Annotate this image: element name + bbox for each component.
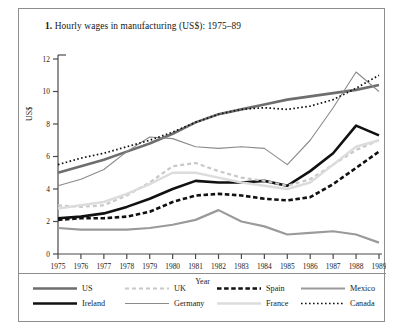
x-tick-label: 1982 — [211, 262, 226, 271]
legend-label-germany: Germany — [174, 299, 204, 308]
legend-label-spain: Spain — [266, 284, 285, 293]
x-tick-label: 1989 — [372, 262, 386, 271]
x-tick-label: 1981 — [188, 262, 203, 271]
legend-swatch-spain — [217, 285, 261, 292]
y-tick-label: 6 — [46, 152, 50, 161]
legend-item-france: France — [217, 299, 301, 308]
legend-swatch-germany — [125, 300, 169, 307]
series-line-france — [58, 140, 379, 208]
legend-grid: USUKSpainMexicoIrelandGermanyFranceCanad… — [33, 281, 377, 311]
legend-swatch-mexico — [301, 285, 345, 292]
x-tick-label: 1980 — [165, 262, 180, 271]
x-tick-label: 1984 — [257, 262, 272, 271]
series-line-mexico — [58, 210, 379, 243]
legend-item-uk: UK — [125, 284, 217, 293]
series-line-us — [58, 85, 379, 173]
legend-label-uk: UK — [174, 284, 186, 293]
series-line-canada — [58, 75, 379, 164]
legend-label-france: France — [266, 299, 288, 308]
legend-label-us: US — [82, 284, 92, 293]
legend-swatch-canada — [301, 300, 345, 307]
series-line-ireland — [58, 126, 379, 219]
series-line-uk — [58, 140, 379, 207]
x-tick-label: 1979 — [142, 262, 157, 271]
legend-label-canada: Canada — [350, 299, 375, 308]
figure-title: 1. Hourly wages in manufacturing (US$): … — [45, 21, 241, 31]
legend-swatch-uk — [125, 285, 169, 292]
x-tick-label: 1978 — [119, 262, 134, 271]
x-tick-label: 1987 — [326, 262, 341, 271]
y-tick-label: 0 — [46, 250, 50, 259]
legend-item-ireland: Ireland — [33, 299, 125, 308]
y-tick-label: 4 — [46, 185, 50, 194]
legend-item-us: US — [33, 284, 125, 293]
legend-item-germany: Germany — [125, 299, 217, 308]
legend-swatch-us — [33, 285, 77, 292]
legend-label-mexico: Mexico — [350, 284, 375, 293]
x-tick-label: 1976 — [74, 262, 89, 271]
y-tick-label: 2 — [46, 217, 50, 226]
legend-swatch-france — [217, 300, 261, 307]
figure-number: 1. — [45, 21, 52, 31]
plot-area: 0246810121975197619771978197919801981198… — [19, 35, 386, 275]
line-chart: 0246810121975197619771978197919801981198… — [19, 35, 386, 275]
series-layer — [58, 72, 379, 243]
y-tick-label: 8 — [46, 120, 50, 129]
legend-swatch-ireland — [33, 300, 77, 307]
series-line-germany — [58, 72, 379, 186]
legend-item-canada: Canada — [301, 299, 377, 308]
legend-item-spain: Spain — [217, 284, 301, 293]
legend-item-mexico: Mexico — [301, 284, 377, 293]
x-tick-label: 1983 — [234, 262, 249, 271]
figure-title-text: Hourly wages in manufacturing (US$): 197… — [55, 21, 241, 31]
y-tick-label: 12 — [43, 55, 51, 64]
x-tick-label: 1986 — [303, 262, 318, 271]
x-tick-label: 1988 — [349, 262, 364, 271]
legend-label-ireland: Ireland — [82, 299, 105, 308]
y-tick-label: 10 — [43, 87, 51, 96]
y-axis-label: US$ — [25, 107, 34, 121]
figure-container: 1. Hourly wages in manufacturing (US$): … — [18, 8, 385, 322]
x-tick-label: 1977 — [96, 262, 111, 271]
x-tick-label: 1975 — [51, 262, 66, 271]
x-tick-label: 1985 — [280, 262, 295, 271]
legend: USUKSpainMexicoIrelandGermanyFranceCanad… — [19, 273, 386, 321]
